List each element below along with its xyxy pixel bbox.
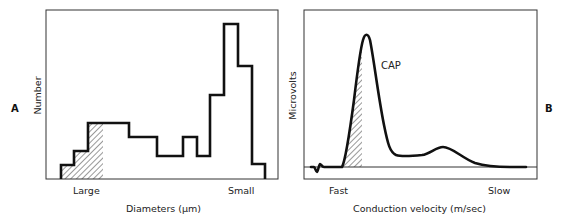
panel-b-y-axis-label: Microvolts [287,66,298,126]
cap-curve [311,35,526,172]
cap-annotation: CAP [381,60,401,71]
panel-a-letter: A [11,103,19,114]
panel-a-y-axis-label: Number [32,71,43,121]
panel-a-x-right-label: Small [228,185,254,196]
panel-a-x-left-label: Large [73,185,100,196]
panel-b-plot [304,10,537,179]
panel-a-plot [46,10,278,179]
panel-b-x-axis-label: Conduction velocity (m/sec) [353,203,486,214]
panel-a-x-axis-label: Diameters (μm) [126,203,201,214]
panel-b-letter: B [545,103,553,114]
panel-b-frame [304,10,537,179]
panel-b-x-left-label: Fast [329,185,348,196]
panel-b-x-right-label: Slow [488,185,510,196]
